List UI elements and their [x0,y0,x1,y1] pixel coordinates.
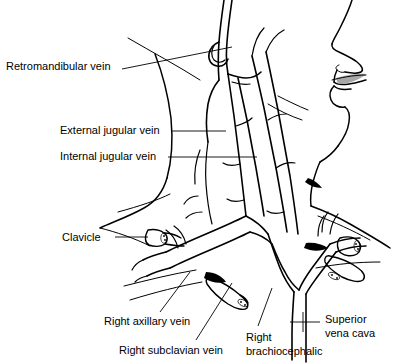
leader-right-subclavian [196,283,232,340]
retromandibular-vein [209,0,232,80]
internal-jugular-vein [252,28,298,234]
first-rib-cut [206,277,249,309]
label-superior-vena-cava-line1: Superior [325,313,367,326]
facial-profile [311,0,366,206]
external-jugular-vein [223,74,264,216]
leader-right-axillary [160,272,190,312]
right-subclavian-vein [166,216,272,268]
label-right-axillary-vein: Right axillary vein [104,315,190,328]
label-retromandibular-vein: Retromandibular vein [6,60,111,73]
anatomy-illustration [0,0,395,364]
label-clavicle: Clavicle [62,231,101,244]
facial-vein [207,72,262,142]
anatomy-figure: Retromandibular vein External jugular ve… [0,0,395,364]
label-right-brachiocephalic-line2: brachiocephalic [246,345,322,358]
right-brachiocephalic-vein [268,234,299,292]
label-external-jugular-vein: External jugular vein [60,124,160,137]
label-internal-jugular-vein: Internal jugular vein [60,150,156,163]
label-right-subclavian-vein: Right subclavian vein [119,344,223,357]
right-clavicle-cut [145,230,184,247]
leader-right-brachiocephalic [258,288,272,326]
anterior-jugular-vein [184,142,212,224]
label-superior-vena-cava-line2: vena cava [325,327,375,340]
label-right-brachiocephalic-line1: Right [246,331,272,344]
